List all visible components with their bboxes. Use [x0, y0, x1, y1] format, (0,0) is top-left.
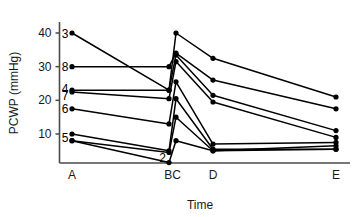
data-point-2-D [210, 148, 215, 153]
data-point-3-E [333, 94, 338, 99]
series-label-6: 6 [62, 102, 69, 116]
series-label-7: 7 [62, 89, 69, 103]
data-point-7-A [69, 89, 74, 94]
data-point-7-B [166, 96, 171, 101]
data-point-7-C [173, 59, 178, 64]
series-line-u1 [72, 117, 336, 152]
y-tick-label-40: 40 [38, 26, 52, 40]
data-point-5-C [173, 96, 178, 101]
y-tick-label-20: 20 [38, 93, 52, 107]
data-point-8-B [166, 64, 171, 69]
y-tick-label-30: 30 [38, 60, 52, 74]
data-point-2-E [333, 147, 338, 152]
x-tick-label-D: D [209, 168, 218, 182]
data-point-2-C [173, 138, 178, 143]
data-point-7-D [210, 99, 215, 104]
x-tick-label-E: E [332, 168, 340, 182]
data-point-4-E [333, 128, 338, 133]
y-tick-label-10: 10 [38, 127, 52, 141]
data-point-4-C [173, 52, 178, 57]
data-point-u1-B [166, 150, 171, 155]
series-label-8: 8 [62, 60, 69, 74]
data-point-8-E [333, 106, 338, 111]
data-point-6-C [173, 79, 178, 84]
pcwp-vs-time-line-chart: 10203040ABCDE 3847652 TimePCWP (mmHg) [0, 0, 356, 217]
data-series [69, 30, 338, 165]
data-point-2-B [166, 160, 171, 165]
data-point-6-A [69, 106, 74, 111]
chart-figure: 10203040ABCDE 3847652 TimePCWP (mmHg) [0, 0, 356, 217]
data-point-2-A [69, 138, 74, 143]
data-point-8-A [69, 64, 74, 69]
series-label-2: 2 [159, 151, 166, 165]
data-point-6-B [166, 121, 171, 126]
data-point-u1-C [173, 115, 178, 120]
data-point-3-C [173, 30, 178, 35]
data-point-3-D [210, 56, 215, 61]
x-tick-label-A: A [68, 168, 76, 182]
data-point-4-D [210, 93, 215, 98]
data-point-8-D [210, 78, 215, 83]
data-point-7-E [333, 135, 338, 140]
x-tick-label-BC: BC [164, 168, 181, 182]
data-point-5-A [69, 131, 74, 136]
series-line-2 [72, 141, 336, 163]
data-point-3-A [69, 30, 74, 35]
y-axis-title: PCWP (mmHg) [7, 52, 21, 134]
series-label-3: 3 [62, 27, 69, 41]
series-label-5: 5 [62, 131, 69, 145]
x-axis-title: Time [187, 198, 214, 212]
series-line-8 [72, 53, 336, 109]
series-line-3 [72, 33, 336, 97]
